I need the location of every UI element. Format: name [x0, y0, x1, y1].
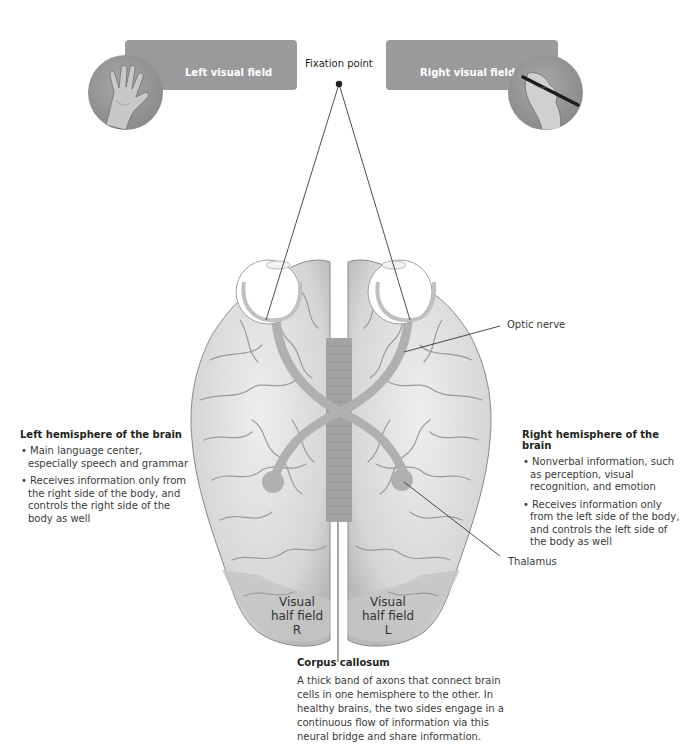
half-field-r-line1: Visual — [262, 595, 332, 609]
left-hemisphere-info: Left hemisphere of the brain Main langua… — [20, 429, 195, 530]
visual-half-field-r: Visual half field R — [262, 595, 332, 637]
fixation-point-dot — [336, 81, 342, 87]
right-hemisphere-bullet: Nonverbal information, such as perceptio… — [522, 456, 682, 494]
half-field-l-line2: half field — [353, 609, 423, 623]
right-hemisphere-bullet: Receives information only from the left … — [522, 499, 682, 549]
half-field-l-line1: Visual — [353, 595, 423, 609]
left-thalamus — [262, 471, 284, 493]
right-eye — [368, 260, 434, 324]
visual-half-field-l: Visual half field L — [353, 595, 423, 637]
half-field-l-line3: L — [353, 623, 423, 637]
right-hemisphere-info: Right hemisphere of the brain Nonverbal … — [522, 429, 682, 554]
right-thalamus — [391, 469, 413, 491]
left-hemisphere-title: Left hemisphere of the brain — [20, 429, 195, 440]
right-hemisphere-title: Right hemisphere of the brain — [522, 429, 682, 451]
left-hemisphere-bullet: Receives information only from the right… — [20, 475, 195, 525]
half-field-r-line3: R — [262, 623, 332, 637]
half-field-r-line2: half field — [262, 609, 332, 623]
corpus-callosum-text: A thick band of axons that connect brain… — [297, 674, 519, 744]
corpus-callosum-band — [326, 338, 352, 522]
optic-nerve-label: Optic nerve — [507, 319, 565, 330]
left-hemisphere-bullet: Main language center, especially speech … — [20, 445, 195, 470]
thalamus-label: Thalamus — [508, 556, 557, 567]
corpus-callosum-info: Corpus callosum A thick band of axons th… — [297, 657, 519, 744]
corpus-callosum-title: Corpus callosum — [297, 657, 519, 668]
